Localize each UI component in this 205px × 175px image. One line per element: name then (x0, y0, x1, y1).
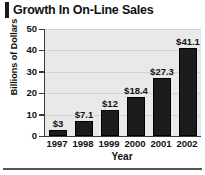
x-axis-ticks: 1997 1998 1999 2000 2001 2002 (44, 138, 200, 150)
bar-value-label: $18.4 (124, 86, 148, 96)
y-tick-label: 30 (0, 67, 44, 77)
x-tick-label: 1997 (44, 138, 70, 150)
x-axis-label: Year (44, 151, 200, 162)
bar[interactable] (101, 110, 119, 136)
y-tick-label: 10 (0, 110, 44, 120)
chart-card: Growth In On-Line Sales Billions of Doll… (0, 0, 205, 175)
bar-value-label: $12 (102, 99, 118, 109)
bar-value-label: $7.1 (75, 110, 94, 120)
bar[interactable] (49, 130, 67, 136)
bar-series: $3 $7.1 $12 $18.4 $27.3 $41.1 (45, 29, 201, 136)
bar[interactable] (153, 78, 171, 136)
x-tick-label: 2000 (122, 138, 148, 150)
y-tick-label: 40 (0, 45, 44, 55)
chart-title: Growth In On-Line Sales (13, 2, 154, 18)
plot-area: $3 $7.1 $12 $18.4 $27.3 $41.1 (44, 29, 201, 137)
y-tick-label: 0 (0, 131, 44, 141)
bar-slot: $41.1 (175, 29, 201, 136)
bar-slot: $7.1 (71, 29, 97, 136)
bar-slot: $18.4 (123, 29, 149, 136)
bar[interactable] (127, 97, 145, 136)
y-tick-label: 50 (0, 24, 44, 34)
bar-value-label: $27.3 (150, 67, 174, 77)
bar[interactable] (179, 48, 197, 136)
bar-slot: $27.3 (149, 29, 175, 136)
bar[interactable] (75, 121, 93, 136)
x-tick-label: 1998 (70, 138, 96, 150)
chart-title-row: Growth In On-Line Sales (5, 2, 154, 18)
bar-slot: $12 (97, 29, 123, 136)
bar-value-label: $41.1 (176, 37, 200, 47)
x-tick-label: 1999 (96, 138, 122, 150)
y-axis-ticks: 50 40 30 20 10 0 (0, 29, 44, 136)
bottom-divider (3, 168, 202, 170)
bar-slot: $3 (45, 29, 71, 136)
bar-value-label: $3 (53, 119, 64, 129)
x-tick-label: 2001 (148, 138, 174, 150)
x-tick-label: 2002 (174, 138, 200, 150)
y-tick-label: 20 (0, 88, 44, 98)
